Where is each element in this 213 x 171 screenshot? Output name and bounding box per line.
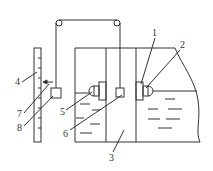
diagram-svg: 1 2 3 4 5 6 7 8 — [0, 0, 213, 171]
water-dashes-right — [148, 99, 182, 128]
leader-2 — [146, 50, 180, 88]
leader-1 — [141, 38, 155, 84]
label-6: 6 — [63, 128, 68, 139]
label-2: 2 — [180, 39, 185, 50]
leader-5 — [66, 92, 92, 110]
label-8: 8 — [17, 122, 22, 133]
leader-4 — [22, 72, 37, 82]
label-4: 4 — [15, 76, 20, 87]
float-box — [116, 88, 124, 97]
leader-8 — [24, 96, 53, 126]
label-3: 3 — [109, 152, 114, 163]
tank-broken-edge — [175, 48, 200, 142]
arrow-head-icon — [43, 80, 47, 84]
valve-body-right — [136, 82, 143, 100]
valve-cap-right — [148, 86, 153, 96]
label-7: 7 — [17, 108, 22, 119]
valve-body-left — [99, 82, 106, 100]
leader-6 — [70, 95, 122, 130]
label-5: 5 — [60, 106, 65, 117]
water-dashes-left — [76, 104, 100, 133]
leader-7 — [24, 84, 49, 113]
leader-3 — [113, 130, 124, 152]
valve-seal-left — [94, 86, 99, 96]
pulley-left — [56, 20, 62, 26]
valve-cap-left — [89, 86, 94, 96]
diagram-canvas: 1 2 3 4 5 6 7 8 — [0, 0, 213, 171]
label-1: 1 — [152, 27, 157, 38]
valve-seal-right — [143, 86, 148, 96]
pulley-right — [114, 20, 120, 26]
